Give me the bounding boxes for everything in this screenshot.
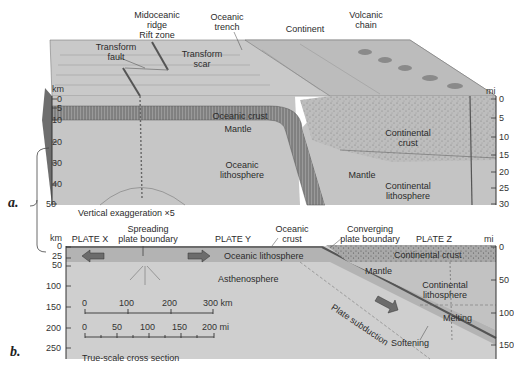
converging-boundary-label: Convergingplate boundary	[335, 224, 405, 244]
tick: 20	[499, 167, 509, 177]
tick: 5	[57, 103, 62, 113]
tick: 0	[57, 241, 62, 251]
panel-a-letter: a.	[8, 195, 19, 211]
caption-vertical-exaggeration: Vertical exaggeration ×5	[78, 208, 175, 218]
tick: 250	[46, 343, 61, 353]
tick: 20	[52, 137, 62, 147]
oceanic-crust-b-label: Oceaniccrust	[272, 224, 312, 244]
asthenosphere-label: Asthenosphere	[218, 274, 279, 284]
axis-b-right-unit: mi	[484, 234, 494, 244]
tick: 5	[499, 113, 504, 123]
volcanic-chain-label: Volcanicchain	[343, 10, 389, 30]
continental-crust-b-label: Continental crust	[394, 250, 462, 260]
oceanic-lithosphere-b-label: Oceanic lithosphere	[224, 251, 304, 261]
scale-mi-tick: 0	[82, 322, 87, 332]
tick: 150	[46, 302, 61, 312]
tick: 200	[46, 323, 61, 333]
tick: 100	[46, 281, 61, 291]
scale-mi-tick: 50	[112, 322, 122, 332]
continental-crust-label: Continentalcrust	[378, 128, 438, 148]
caption-true-scale: True-scale cross section	[82, 353, 179, 363]
tick: 50	[499, 275, 509, 285]
oceanic-lithosphere-label: Oceaniclithosphere	[212, 160, 272, 180]
axis-a-right-unit: mi	[486, 86, 496, 96]
continental-lithosphere-b-label: Continentallithosphere	[415, 280, 475, 300]
panel-b-letter: b.	[10, 344, 21, 360]
mantle-right-label: Mantle	[342, 170, 382, 180]
transform-fault-label: Transformfault	[92, 42, 140, 62]
tick: 150	[499, 340, 514, 350]
tick: 0	[499, 242, 504, 252]
tick: 10	[52, 115, 62, 125]
scale-km-tick: 200	[162, 298, 177, 308]
scale-km-tick: 300 km	[203, 298, 233, 308]
transform-scar-label: Transformscar	[178, 49, 226, 69]
tick: 100	[499, 308, 514, 318]
scale-km-tick: 0	[82, 298, 87, 308]
tick: 50	[52, 260, 62, 270]
continental-lithosphere-label: Continentallithosphere	[378, 181, 438, 201]
plate-z-label: PLATE Z	[414, 234, 454, 244]
block-left-side	[42, 88, 52, 205]
mantle-b-label: Mantle	[365, 266, 392, 276]
scale-km-tick: 100	[119, 298, 134, 308]
scale-mi-tick: 150	[172, 322, 187, 332]
oceanic-crust-label: Oceanic crust	[205, 111, 275, 121]
softening-label: Softening	[391, 338, 429, 348]
plate-x-label: PLATE X	[70, 234, 110, 244]
tick: 30	[52, 158, 62, 168]
continent-label: Continent	[275, 24, 335, 34]
tick: 0	[499, 94, 504, 104]
midoceanic-ridge-label: MidoceanicridgeRift zone	[132, 10, 182, 40]
axis-a-left-unit: km	[52, 84, 64, 94]
scale-mi-tick: 100	[140, 322, 155, 332]
plate-y-label: PLATE Y	[213, 234, 253, 244]
tick: 15	[499, 150, 509, 160]
tick: 50	[46, 199, 56, 209]
tick: 40	[52, 179, 62, 189]
mantle-left-label: Mantle	[218, 124, 258, 134]
melting-label: Melting	[443, 313, 472, 323]
tick: 10	[499, 132, 509, 142]
scale-mi-tick: 200 mi	[202, 322, 229, 332]
tick: 30	[499, 199, 509, 209]
oceanic-trench-label: Oceanictrench	[207, 12, 247, 32]
spreading-boundary-label: Spreadingplate boundary	[118, 224, 178, 244]
tick: 25	[499, 183, 509, 193]
